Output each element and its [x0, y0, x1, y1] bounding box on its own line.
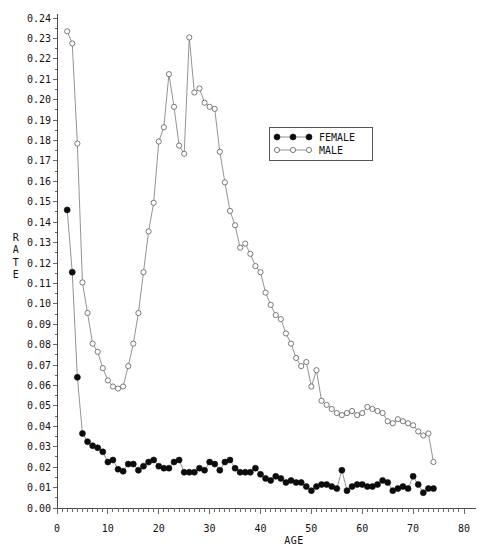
data-point-male	[360, 410, 365, 415]
data-point-female	[334, 486, 340, 492]
y-tick-label: 0.00	[27, 503, 51, 514]
y-tick-label: 0.09	[27, 319, 51, 330]
data-point-female	[375, 482, 381, 488]
y-tick-label: 0.19	[27, 115, 51, 126]
data-point-male	[151, 200, 156, 205]
data-point-male	[349, 408, 354, 413]
data-point-male	[334, 410, 339, 415]
data-point-male	[421, 433, 426, 438]
data-point-male	[90, 341, 95, 346]
data-point-male	[182, 151, 187, 156]
data-point-male	[370, 406, 375, 411]
data-point-male	[416, 429, 421, 434]
data-point-male	[299, 364, 304, 369]
data-point-male	[121, 384, 126, 389]
data-point-female	[232, 465, 238, 471]
data-point-male	[105, 378, 110, 383]
legend-sample-marker	[274, 147, 279, 152]
x-tick-label: 80	[458, 523, 470, 534]
data-point-male	[95, 349, 100, 354]
data-point-female	[298, 479, 304, 485]
legend-sample-marker	[274, 134, 280, 140]
data-point-male	[177, 143, 182, 148]
data-point-female	[151, 457, 157, 463]
y-tick-label: 0.07	[27, 360, 51, 371]
y-tick-label: 0.05	[27, 400, 51, 411]
data-point-male	[65, 29, 70, 34]
y-axis-title-letter: T	[13, 257, 20, 268]
data-point-female	[268, 477, 274, 483]
data-point-male	[75, 141, 80, 146]
legend-sample-marker	[290, 147, 295, 152]
y-tick-label: 0.22	[27, 53, 51, 64]
data-point-male	[161, 125, 166, 130]
data-point-female	[303, 484, 309, 490]
axes	[53, 14, 476, 514]
data-point-male	[217, 149, 222, 154]
data-point-male	[319, 398, 324, 403]
data-point-male	[339, 413, 344, 418]
data-point-female	[247, 469, 253, 475]
data-point-female	[278, 475, 284, 481]
y-tick-label: 0.01	[27, 482, 51, 493]
data-point-male	[202, 100, 207, 105]
data-point-male	[238, 245, 243, 250]
data-point-male	[248, 251, 253, 256]
y-tick-label: 0.04	[27, 421, 51, 432]
data-point-female	[64, 207, 70, 213]
data-point-male	[294, 355, 299, 360]
data-point-male	[192, 90, 197, 95]
data-point-male	[278, 317, 283, 322]
data-point-male	[171, 104, 176, 109]
y-axis-title-letter: A	[13, 244, 20, 255]
data-point-female	[135, 467, 141, 473]
data-point-female	[344, 488, 350, 494]
data-point-male	[100, 366, 105, 371]
data-point-female	[69, 269, 75, 275]
data-point-male	[232, 223, 237, 228]
data-point-male	[126, 364, 131, 369]
data-point-female	[74, 374, 80, 380]
data-point-female	[420, 490, 426, 496]
data-point-male	[411, 423, 416, 428]
data-point-male	[222, 180, 227, 185]
x-axis-tick-labels: 01020304050607080	[54, 523, 470, 534]
y-axis-tick-labels: 0.000.010.020.030.040.050.060.070.080.09…	[27, 13, 51, 514]
data-point-female	[410, 473, 416, 479]
data-point-male	[273, 312, 278, 317]
data-point-female	[217, 467, 223, 473]
data-point-male	[375, 408, 380, 413]
y-tick-label: 0.06	[27, 380, 51, 391]
data-point-male	[80, 280, 85, 285]
y-axis-title-letter: R	[13, 232, 20, 243]
data-point-male	[355, 413, 360, 418]
y-tick-label: 0.02	[27, 462, 51, 473]
data-point-male	[243, 241, 248, 246]
legend-sample-marker	[290, 134, 296, 140]
y-tick-label: 0.11	[27, 278, 51, 289]
data-point-female	[140, 463, 146, 469]
data-point-male	[227, 208, 232, 213]
data-point-male	[426, 431, 431, 436]
data-point-female	[110, 457, 116, 463]
data-point-male	[324, 402, 329, 407]
y-tick-label: 0.12	[27, 258, 51, 269]
y-tick-label: 0.03	[27, 441, 51, 452]
data-point-female	[191, 469, 197, 475]
data-point-male	[304, 359, 309, 364]
data-point-female	[95, 445, 101, 451]
legend-label: MALE	[319, 145, 343, 156]
data-point-male	[395, 417, 400, 422]
y-tick-label: 0.21	[27, 74, 51, 85]
legend-sample-marker	[306, 134, 312, 140]
y-tick-label: 0.17	[27, 155, 51, 166]
data-point-female	[430, 486, 436, 492]
data-point-male	[110, 384, 115, 389]
data-point-female	[212, 461, 218, 467]
y-tick-label: 0.08	[27, 339, 51, 350]
data-point-male	[85, 310, 90, 315]
data-point-male	[131, 341, 136, 346]
data-point-male	[385, 419, 390, 424]
y-tick-label: 0.13	[27, 237, 51, 248]
data-point-female	[415, 482, 421, 488]
